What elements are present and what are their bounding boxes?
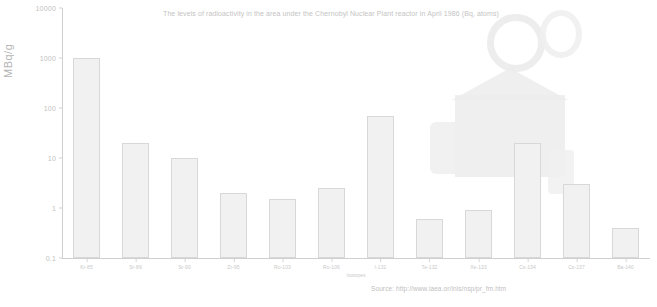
x-tick: Ru-103 xyxy=(274,259,291,270)
x-tick: Sr-89 xyxy=(129,259,142,270)
x-tick: Sr-90 xyxy=(178,259,191,270)
y-tick-label: 0.1 xyxy=(0,255,56,262)
x-tick-mark xyxy=(332,259,333,262)
bar xyxy=(612,228,639,258)
bar xyxy=(122,143,149,258)
x-tick-mark xyxy=(528,259,529,262)
y-tick-label: 1000 xyxy=(0,55,56,62)
bar xyxy=(563,184,590,258)
x-tick-mark xyxy=(283,259,284,262)
x-tick: I-131 xyxy=(375,259,387,270)
bar xyxy=(171,158,198,258)
x-tick-label: Ru-106 xyxy=(323,264,340,270)
x-tick: Cs-134 xyxy=(519,259,536,270)
y-tick-label: 1 xyxy=(0,205,56,212)
bar xyxy=(73,58,100,258)
x-tick-mark xyxy=(184,259,185,262)
y-tick-label: 10000 xyxy=(0,5,56,12)
x-tick-label: Cs-134 xyxy=(519,264,536,270)
bar xyxy=(514,143,541,258)
x-tick: Ru-106 xyxy=(323,259,340,270)
x-tick-label: Cs-137 xyxy=(568,264,585,270)
x-tick: Zr-95 xyxy=(227,259,239,270)
x-tick-label: Sr-89 xyxy=(129,264,142,270)
x-tick-mark xyxy=(86,259,87,262)
x-tick-label: Ba-140 xyxy=(617,264,634,270)
x-tick-mark xyxy=(233,259,234,262)
bar xyxy=(269,199,296,258)
bar xyxy=(367,116,394,258)
x-tick-mark xyxy=(478,259,479,262)
x-tick-label: Te-132 xyxy=(422,264,438,270)
x-tick-mark xyxy=(429,259,430,262)
bar xyxy=(220,193,247,258)
x-tick-mark xyxy=(625,259,626,262)
x-tick-label: Ru-103 xyxy=(274,264,291,270)
x-tick-label: Sr-90 xyxy=(178,264,191,270)
y-tick-label: 10 xyxy=(0,155,56,162)
x-tick: Kr-85 xyxy=(80,259,93,270)
source-note: Source: http://www.iaea.or/inis/nsp/pr_f… xyxy=(371,285,506,292)
chart-figure: The levels of radioactivity in the area … xyxy=(0,0,657,307)
x-tick: Xe-133 xyxy=(470,259,487,270)
y-tick-label: 100 xyxy=(0,105,56,112)
x-tick-label: Kr-85 xyxy=(80,264,93,270)
x-tick-label: I-131 xyxy=(375,264,387,270)
x-tick-label: Xe-133 xyxy=(470,264,487,270)
bar xyxy=(318,188,345,258)
bar-series xyxy=(62,8,650,258)
x-tick-mark xyxy=(135,259,136,262)
x-tick: Te-132 xyxy=(422,259,438,270)
x-axis-label: Isotopes xyxy=(347,272,366,278)
x-tick-mark xyxy=(381,259,382,262)
x-tick: Ba-140 xyxy=(617,259,634,270)
x-tick-label: Zr-95 xyxy=(227,264,239,270)
x-tick: Cs-137 xyxy=(568,259,585,270)
bar xyxy=(416,219,443,258)
x-tick-mark xyxy=(577,259,578,262)
bar xyxy=(465,210,492,258)
